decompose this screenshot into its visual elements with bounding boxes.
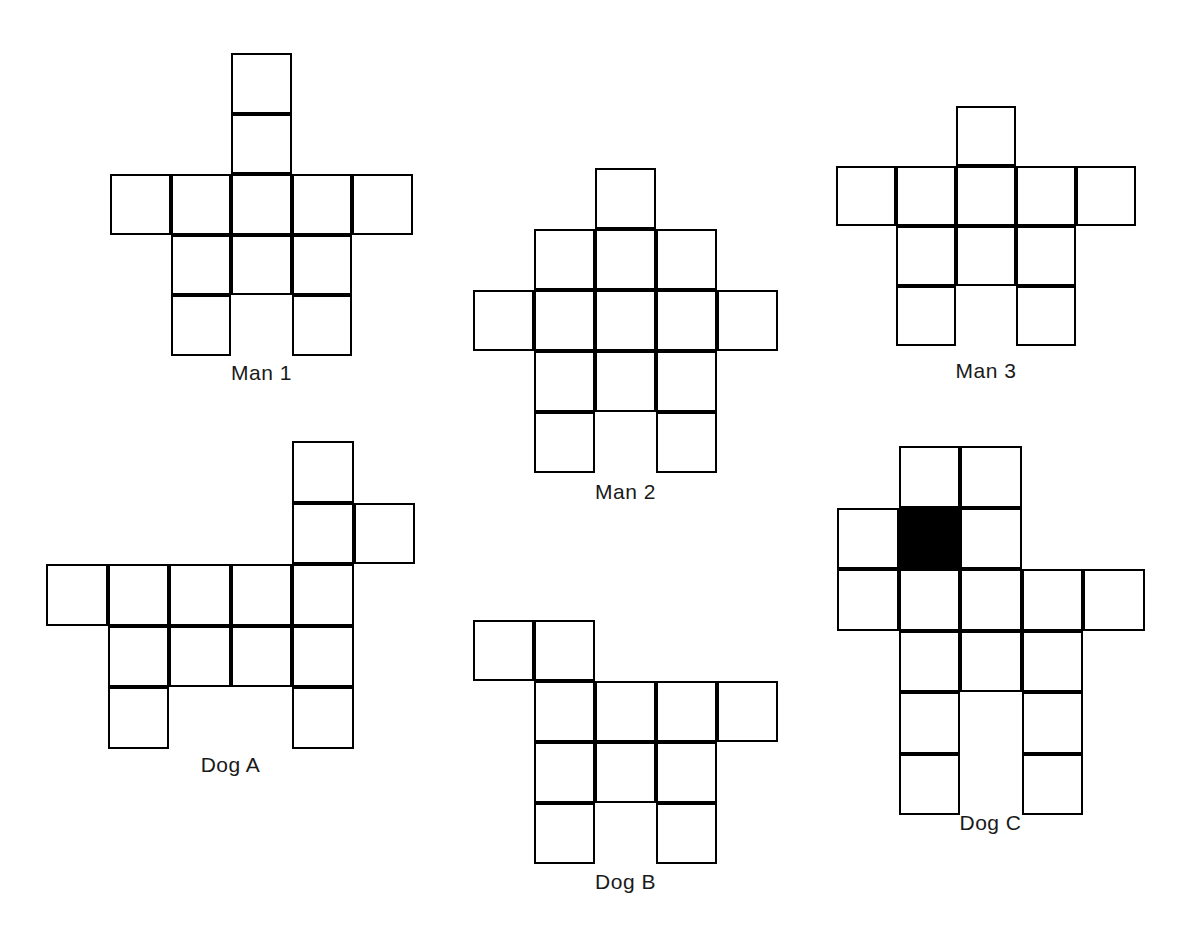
block-cell [534,412,595,473]
block-cell [1022,692,1084,754]
figure-dog-a [46,441,415,749]
block-cell [656,290,717,351]
block-cell [292,235,353,296]
block-cell [656,351,717,412]
block-cell [960,508,1022,570]
figure-label-man-3: Man 3 [836,359,1136,383]
block-cell [354,503,416,565]
block-cell [595,168,656,229]
block-cell [717,681,778,742]
figure-label-man-1: Man 1 [110,361,413,385]
block-cell [717,290,778,351]
block-cell [595,681,656,742]
block-cell [956,166,1016,226]
block-cell [837,569,899,631]
figure-canvas: Man 1Man 2Man 3Dog ADog BDog C [0,0,1181,933]
block-cell [534,229,595,290]
figure-label-dog-c: Dog C [837,811,1144,835]
block-cell [956,226,1016,286]
block-cell [534,803,595,864]
block-cell [108,564,170,626]
block-cell [899,754,961,816]
block-cell [292,564,354,626]
block-cell [169,564,231,626]
block-cell [595,229,656,290]
block-cell [292,687,354,749]
block-cell [231,235,292,296]
figure-dog-c [837,446,1145,815]
block-cell [108,626,170,688]
block-cell [534,620,595,681]
block-cell [960,569,1022,631]
block-cell [899,446,961,508]
block-cell [534,681,595,742]
block-cell [473,620,534,681]
block-cell [656,229,717,290]
block-cell [960,631,1022,693]
block-cell [292,626,354,688]
block-cell [595,742,656,803]
block-cell [46,564,108,626]
block-cell [1022,754,1084,816]
block-cell [1083,569,1145,631]
block-cell [169,626,231,688]
block-cell [352,174,413,235]
block-cell [292,295,353,356]
block-cell [171,235,232,296]
block-cell [231,564,293,626]
block-cell [595,351,656,412]
block-cell [656,412,717,473]
block-cell [1022,631,1084,693]
figure-man-3 [836,106,1136,346]
figure-label-man-2: Man 2 [473,480,778,504]
block-cell [1016,226,1076,286]
block-cell [896,286,956,346]
block-cell [171,295,232,356]
block-cell [896,166,956,226]
figure-man-1 [110,53,413,356]
figure-dog-b [473,620,778,864]
block-cell [292,174,353,235]
block-cell [1016,166,1076,226]
block-cell [656,742,717,803]
block-cell [534,290,595,351]
block-cell [899,569,961,631]
block-cell [292,441,354,503]
block-cell [108,687,170,749]
block-cell [896,226,956,286]
block-cell [899,631,961,693]
block-cell [473,290,534,351]
block-cell [1022,569,1084,631]
block-cell [1016,286,1076,346]
block-cell [837,508,899,570]
block-cell [836,166,896,226]
block-cell-filled [899,508,961,570]
figure-man-2 [473,168,778,473]
block-cell [110,174,171,235]
block-cell [656,803,717,864]
block-cell [534,351,595,412]
block-cell [292,503,354,565]
figure-label-dog-a: Dog A [46,753,415,777]
block-cell [956,106,1016,166]
block-cell [171,174,232,235]
block-cell [960,446,1022,508]
block-cell [656,681,717,742]
block-cell [231,114,292,175]
block-cell [534,742,595,803]
block-cell [231,174,292,235]
block-cell [595,290,656,351]
figure-label-dog-b: Dog B [473,870,778,894]
block-cell [1076,166,1136,226]
block-cell [231,626,293,688]
block-cell [899,692,961,754]
block-cell [231,53,292,114]
